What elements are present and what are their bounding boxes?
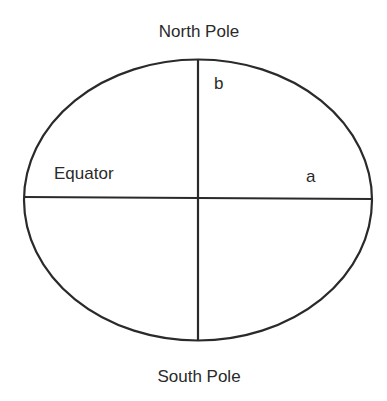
south-pole-label: South Pole: [0, 368, 387, 385]
equator-label: Equator: [54, 165, 114, 182]
semi-minor-axis-label: b: [214, 75, 223, 92]
ellipsoid-diagram: North Pole South Pole Equator b a: [0, 0, 387, 401]
semi-major-axis-label: a: [306, 168, 315, 185]
ellipse-figure: [0, 0, 387, 401]
north-pole-label: North Pole: [0, 23, 387, 40]
